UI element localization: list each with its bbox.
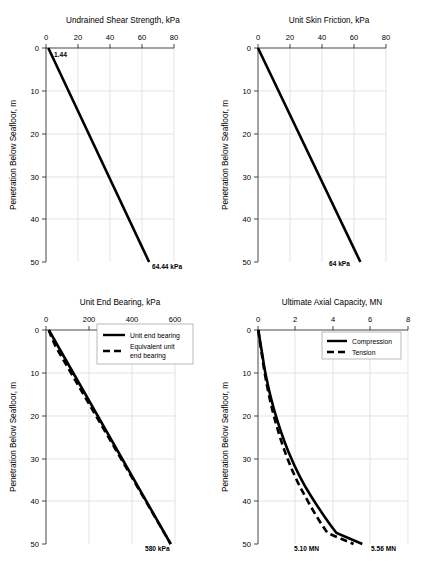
y-tick-label: 10 (243, 87, 251, 96)
chart-title: Ultimate Axial Capacity, MN (282, 298, 382, 307)
x-tick-label: 0 (256, 315, 260, 324)
y-axis-label: Penetration Below Seafloor, m (221, 100, 230, 210)
y-tick-label: 0 (247, 44, 251, 53)
y-tick-label: 30 (243, 173, 251, 182)
x-tick-label: 4 (331, 315, 335, 324)
x-tick-label: 80 (382, 33, 390, 42)
chart-title: Unit Skin Friction, kPa (289, 16, 370, 25)
y-tick-label: 50 (243, 258, 251, 267)
x-tick-label: 400 (126, 315, 139, 324)
annotation-compression-value: 5.56 MN (371, 545, 396, 552)
annotation-end-value: 580 kPa (145, 545, 170, 552)
ultimate-axial-capacity-svg: Ultimate Axial Capacity, MN 0 2 4 6 8 (211, 283, 422, 567)
y-tick-label: 20 (243, 412, 251, 421)
annotation-end-value: 64.44 kPa (152, 263, 182, 270)
chart-panel-undrained-shear-strength: Undrained Shear Strength, kPa 0 20 40 60… (0, 0, 211, 283)
y-tick-label: 0 (35, 326, 39, 335)
x-tick-label: 0 (44, 315, 48, 324)
x-tick-label: 2 (293, 315, 297, 324)
legend-label-equivalent-unit-end-bearing-line2: end bearing (130, 352, 166, 360)
series-line-compression (258, 330, 362, 544)
annotation-tension-value: 5.10 MN (294, 545, 319, 552)
chart-panel-ultimate-axial-capacity: Ultimate Axial Capacity, MN 0 2 4 6 8 (211, 283, 422, 567)
y-tick-label: 50 (31, 540, 39, 549)
x-tick-label: 40 (106, 33, 114, 42)
y-tick-label: 30 (31, 455, 39, 464)
x-tick-label: 6 (368, 315, 372, 324)
annotation-end-value: 64 kPa (329, 260, 350, 267)
y-tick-label: 40 (31, 215, 39, 224)
unit-skin-friction-svg: Unit Skin Friction, kPa 0 20 40 60 80 (211, 0, 422, 283)
y-tick-label: 40 (243, 497, 251, 506)
y-tick-label: 30 (31, 173, 39, 182)
grid-lines (46, 48, 174, 262)
x-tick-label: 20 (74, 33, 82, 42)
chart-legend: Unit end bearing Equivalent unit end bea… (97, 324, 193, 364)
unit-end-bearing-svg: Unit End Bearing, kPa 0 200 400 600 (0, 283, 211, 567)
undrained-shear-strength-svg: Undrained Shear Strength, kPa 0 20 40 60… (0, 0, 211, 283)
legend-label-compression: Compression (352, 338, 392, 346)
x-tick-label: 60 (138, 33, 146, 42)
chart-panel-unit-skin-friction: Unit Skin Friction, kPa 0 20 40 60 80 (211, 0, 422, 283)
y-axis-label: Penetration Below Seafloor, m (221, 382, 230, 492)
chart-legend: Compression Tension (322, 332, 401, 359)
x-tick-label: 200 (83, 315, 96, 324)
y-tick-label: 0 (247, 326, 251, 335)
chart-title: Unit End Bearing, kPa (80, 298, 161, 307)
y-axis-label: Penetration Below Seafloor, m (9, 382, 18, 492)
chart-title: Undrained Shear Strength, kPa (66, 16, 180, 25)
grid-lines (258, 330, 408, 544)
chart-panel-unit-end-bearing: Unit End Bearing, kPa 0 200 400 600 (0, 283, 211, 567)
annotation-start-value: 1.44 (54, 51, 67, 58)
y-tick-label: 50 (31, 258, 39, 267)
axis-lines (254, 44, 386, 262)
x-tick-label: 20 (286, 33, 294, 42)
y-tick-label: 50 (243, 540, 251, 549)
y-tick-label: 20 (31, 412, 39, 421)
legend-label-tension: Tension (352, 349, 376, 356)
y-tick-label: 10 (31, 369, 39, 378)
x-tick-label: 8 (406, 315, 410, 324)
y-tick-label: 20 (243, 130, 251, 139)
series-line-undrained-shear-strength (48, 48, 149, 262)
y-tick-label: 40 (31, 497, 39, 506)
y-axis-label: Penetration Below Seafloor, m (9, 100, 18, 210)
x-tick-label: 600 (169, 315, 182, 324)
grid-lines (258, 48, 386, 262)
y-tick-label: 0 (35, 44, 39, 53)
x-tick-label: 60 (350, 33, 358, 42)
y-tick-label: 20 (31, 130, 39, 139)
x-tick-label: 40 (318, 33, 326, 42)
y-tick-label: 30 (243, 455, 251, 464)
y-tick-label: 10 (31, 87, 39, 96)
legend-label-unit-end-bearing: Unit end bearing (130, 332, 180, 340)
legend-label-equivalent-unit-end-bearing-line1: Equivalent unit (130, 343, 175, 351)
x-tick-label: 0 (44, 33, 48, 42)
y-tick-label: 10 (243, 369, 251, 378)
series-line-unit-skin-friction (258, 48, 360, 262)
x-tick-label: 0 (256, 33, 260, 42)
series-line-tension (258, 330, 353, 544)
y-tick-label: 40 (243, 215, 251, 224)
x-tick-label: 80 (170, 33, 178, 42)
